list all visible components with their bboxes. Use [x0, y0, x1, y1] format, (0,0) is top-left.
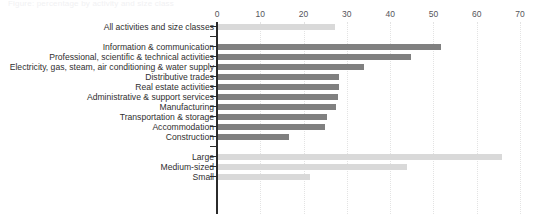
- bar-row: Distributive trades: [0, 72, 534, 82]
- bar-row: Accommodation: [0, 122, 534, 132]
- bar-row: Transportation & storage: [0, 112, 534, 122]
- x-tick-label-0: 0: [215, 9, 220, 20]
- bar-row: Professional, scientific & technical act…: [0, 52, 534, 62]
- x-tick-label-50: 50: [429, 9, 438, 20]
- bar: [218, 74, 339, 81]
- bar: [218, 94, 338, 101]
- x-tick-label-20: 20: [299, 9, 308, 20]
- x-tick-label-70: 70: [515, 9, 524, 20]
- bar-rows: All activities and size classesInformati…: [0, 22, 534, 214]
- bar-row-label: Administrative & support services: [87, 92, 214, 102]
- bar: [218, 24, 335, 31]
- bar: [218, 174, 310, 181]
- x-axis-tick-labels: 010203040506070: [0, 9, 534, 21]
- bar: [218, 64, 364, 71]
- chart-title: Figure: percentage by activity and size …: [8, 0, 208, 8]
- bar-row-label: All activities and size classes: [104, 22, 214, 32]
- y-axis-tick: [210, 26, 217, 27]
- bar: [218, 104, 336, 111]
- bar-row-label: Real estate activities: [135, 82, 214, 92]
- y-axis-tick: [210, 106, 217, 107]
- x-tick-label-40: 40: [385, 9, 394, 20]
- x-tick-label-30: 30: [342, 9, 351, 20]
- y-axis-tick: [210, 126, 217, 127]
- bar-row-label: Transportation & storage: [120, 112, 214, 122]
- bar: [218, 164, 407, 171]
- bar: [218, 124, 325, 131]
- y-axis-tick: [210, 46, 217, 47]
- y-axis-tick: [210, 86, 217, 87]
- bar-row-label: Distributive trades: [145, 72, 214, 82]
- bar-row: Real estate activities: [0, 82, 534, 92]
- bar: [218, 134, 289, 141]
- bar-row: Electricity, gas, steam, air conditionin…: [0, 62, 534, 72]
- bar-row: Medium-sized: [0, 162, 534, 172]
- bar: [218, 44, 441, 51]
- y-axis-tick: [210, 136, 217, 137]
- bar: [218, 154, 502, 161]
- bar-row: Large: [0, 152, 534, 162]
- x-tick-label-10: 10: [256, 9, 265, 20]
- bar-row: Administrative & support services: [0, 92, 534, 102]
- row-spacer: [0, 142, 534, 152]
- y-axis-tick: [210, 66, 217, 67]
- row-spacer: [0, 32, 534, 42]
- y-axis-tick: [210, 146, 217, 147]
- y-axis-tick: [210, 156, 217, 157]
- bar-row-label: Accommodation: [152, 122, 214, 132]
- y-axis-tick: [210, 176, 217, 177]
- bar-row: Construction: [0, 132, 534, 142]
- bar-row: Manufacturing: [0, 102, 534, 112]
- y-axis-tick: [210, 96, 217, 97]
- y-axis-tick: [210, 36, 217, 37]
- bar-row: Information & communication: [0, 42, 534, 52]
- y-axis-tick: [210, 166, 217, 167]
- bar-row-label: Information & communication: [103, 42, 214, 52]
- y-axis-tick: [210, 76, 217, 77]
- y-axis-tick: [210, 116, 217, 117]
- bar: [218, 54, 411, 61]
- x-tick-label-60: 60: [472, 9, 481, 20]
- bar-row-label: Electricity, gas, steam, air conditionin…: [10, 62, 214, 72]
- bar-row-label: Manufacturing: [160, 102, 214, 112]
- bar-row-label: Medium-sized: [161, 162, 215, 172]
- chart-title-strip: Figure: percentage by activity and size …: [8, 0, 208, 8]
- bar-row: All activities and size classes: [0, 22, 534, 32]
- y-axis-tick: [210, 56, 217, 57]
- bar: [218, 84, 339, 91]
- bar-row-label: Professional, scientific & technical act…: [49, 52, 214, 62]
- horizontal-bar-chart: Figure: percentage by activity and size …: [0, 0, 534, 218]
- bar: [218, 114, 327, 121]
- bar-row-label: Construction: [166, 132, 214, 142]
- bar-row: Small: [0, 172, 534, 182]
